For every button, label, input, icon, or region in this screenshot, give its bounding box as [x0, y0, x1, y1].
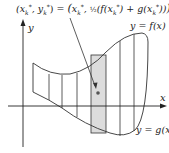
riemann-region-diagram: (xk*, yk*) = (xk*, ½(f(xk*) + g(xk*))) y…	[0, 0, 169, 153]
x-axis-arrow-icon	[160, 104, 167, 109]
x-axis-label: x	[160, 92, 166, 103]
y-axis-arrow-icon	[21, 19, 26, 26]
f-curve-label: y = f(x)	[129, 20, 166, 31]
pointer-line	[70, 18, 95, 86]
y-axis-label: y	[27, 22, 34, 33]
curve-g	[33, 42, 148, 135]
g-curve-label: y = g(x)	[135, 124, 169, 135]
curve-f	[33, 33, 148, 74]
centroid-formula: (xk*, yk*) = (xk*, ½(f(xk*) + g(xk*)))	[16, 2, 169, 16]
centroid-dot	[96, 91, 100, 95]
